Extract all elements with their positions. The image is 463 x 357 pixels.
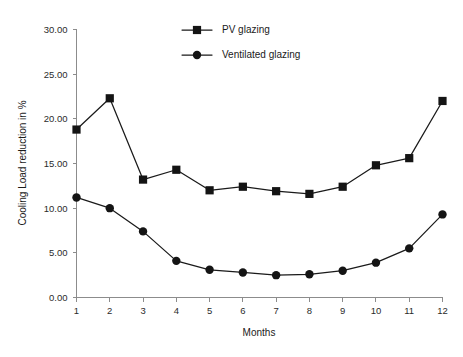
x-tick-label: 11 <box>404 305 414 316</box>
legend-item-pv-glazing[interactable]: PV glazing <box>182 24 270 35</box>
data-point-marker <box>405 154 413 162</box>
x-tick-label: 8 <box>307 305 312 316</box>
data-point-marker <box>372 161 380 169</box>
y-tick-label: 25.00 <box>44 69 68 80</box>
x-axis-ticks: 123456789101112 <box>74 298 448 316</box>
y-tick-label: 5.00 <box>49 247 68 258</box>
chart-legend: PV glazingVentilated glazing <box>182 24 300 60</box>
y-tick-label: 15.00 <box>44 158 68 169</box>
x-tick-label: 3 <box>140 305 145 316</box>
legend-label: PV glazing <box>222 24 270 35</box>
x-tick-label: 7 <box>273 305 278 316</box>
data-point-marker <box>438 210 446 218</box>
data-point-marker <box>305 190 313 198</box>
data-point-marker <box>205 186 213 194</box>
data-point-marker <box>106 94 114 102</box>
data-point-marker <box>106 204 114 212</box>
data-point-marker <box>205 266 213 274</box>
data-point-marker <box>239 268 247 276</box>
x-tick-label: 5 <box>207 305 212 316</box>
series-line <box>77 197 443 275</box>
data-point-marker <box>372 258 380 266</box>
x-tick-label: 12 <box>437 305 448 316</box>
y-tick-label: 30.00 <box>44 24 68 35</box>
data-point-marker <box>172 166 180 174</box>
data-point-marker <box>72 193 80 201</box>
legend-square-marker-icon <box>193 26 201 34</box>
chart-figure: 0.005.0010.0015.0020.0025.0030.00 123456… <box>0 0 463 357</box>
series-line <box>77 98 443 194</box>
data-point-marker <box>139 175 147 183</box>
x-tick-label: 2 <box>107 305 112 316</box>
data-point-marker <box>338 267 346 275</box>
y-axis-ticks: 0.005.0010.0015.0020.0025.0030.00 <box>44 24 77 303</box>
data-point-marker <box>272 187 280 195</box>
data-point-marker <box>272 271 280 279</box>
y-tick-label: 0.00 <box>49 292 68 303</box>
y-axis-title: Cooling Load reduction in % <box>17 100 28 225</box>
data-point-marker <box>305 270 313 278</box>
legend-circle-marker-icon <box>193 51 201 59</box>
line-chart-canvas: 0.005.0010.0015.0020.0025.0030.00 123456… <box>0 0 463 357</box>
y-tick-label: 20.00 <box>44 113 68 124</box>
series-pv-glazing <box>72 94 446 198</box>
data-point-marker <box>239 183 247 191</box>
data-series-layer <box>72 94 446 279</box>
data-point-marker <box>139 227 147 235</box>
data-point-marker <box>438 97 446 105</box>
data-point-marker <box>405 244 413 252</box>
legend-item-ventilated-glazing[interactable]: Ventilated glazing <box>182 49 300 60</box>
data-point-marker <box>172 257 180 265</box>
legend-label: Ventilated glazing <box>222 49 300 60</box>
series-ventilated-glazing <box>72 193 446 279</box>
x-tick-label: 9 <box>340 305 345 316</box>
x-axis-title: Months <box>243 327 276 338</box>
x-tick-label: 10 <box>371 305 382 316</box>
data-point-marker <box>72 125 80 133</box>
x-tick-label: 4 <box>174 305 179 316</box>
x-tick-label: 1 <box>74 305 79 316</box>
data-point-marker <box>339 183 347 191</box>
y-tick-label: 10.00 <box>44 203 68 214</box>
x-tick-label: 6 <box>240 305 245 316</box>
